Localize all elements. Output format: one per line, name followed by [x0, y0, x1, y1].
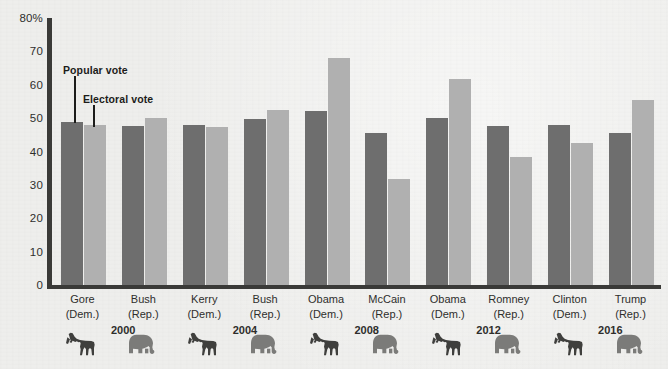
bar-popular-obama-4[interactable]: [305, 111, 327, 285]
bar-popular-bush-3[interactable]: [244, 119, 266, 285]
bar-group-gore-0: [61, 18, 106, 285]
donkey-icon-0: [65, 332, 99, 358]
bar-electoral-trump-9[interactable]: [632, 100, 654, 285]
candidate-name: Trump: [615, 293, 646, 305]
bar-group-kerry-2: [183, 18, 228, 285]
bar-popular-bush-1[interactable]: [122, 126, 144, 285]
bar-electoral-obama-4[interactable]: [328, 58, 350, 285]
bar-electoral-bush-1[interactable]: [145, 118, 167, 285]
bar-popular-obama-6[interactable]: [426, 118, 448, 285]
y-tick-label-50: 50: [3, 112, 43, 124]
candidate-name: Bush: [253, 293, 278, 305]
donkey-icon-4: [309, 332, 343, 358]
y-tick-label-60: 60: [3, 79, 43, 91]
donkey-icon-8: [553, 332, 587, 358]
electoral-vote-leader-line: [93, 105, 95, 127]
candidate-name: Bush: [131, 293, 156, 305]
bar-electoral-clinton-8[interactable]: [571, 143, 593, 285]
y-tick-label-80: 80%: [3, 12, 43, 24]
bar-electoral-romney-7[interactable]: [510, 157, 532, 285]
electoral-vote-annotation-label: Electoral vote: [83, 93, 153, 105]
bar-group-mccain-5: [365, 18, 410, 285]
candidate-name: Gore: [70, 293, 94, 305]
bar-electoral-mccain-5[interactable]: [388, 179, 410, 285]
bar-popular-romney-7[interactable]: [487, 126, 509, 285]
bar-electoral-kerry-2[interactable]: [206, 127, 228, 285]
elephant-icon-1: [126, 332, 160, 358]
bar-electoral-obama-6[interactable]: [449, 79, 471, 285]
bar-group-obama-6: [426, 18, 471, 285]
bar-group-romney-7: [487, 18, 532, 285]
candidate-party: (Rep.): [591, 307, 668, 322]
y-tick-label-30: 30: [3, 179, 43, 191]
candidate-label-trump-9: Trump(Rep.): [591, 292, 668, 322]
bar-electoral-gore-0[interactable]: [84, 125, 106, 285]
elephant-icon-5: [370, 332, 404, 358]
elephant-icon-7: [492, 332, 526, 358]
bar-group-bush-1: [122, 18, 167, 285]
bar-group-bush-3: [244, 18, 289, 285]
plot-area: [52, 18, 661, 285]
bar-popular-kerry-2[interactable]: [183, 125, 205, 285]
x-axis: [47, 285, 661, 289]
popular-vote-leader-line: [74, 76, 76, 123]
candidate-name: Obama: [308, 293, 344, 305]
bar-group-clinton-8: [548, 18, 593, 285]
bar-group-trump-9: [609, 18, 654, 285]
bar-popular-clinton-8[interactable]: [548, 125, 570, 285]
candidate-name: McCain: [368, 293, 405, 305]
y-tick-label-70: 70: [3, 45, 43, 57]
candidate-name: Clinton: [553, 293, 587, 305]
bar-popular-trump-9[interactable]: [609, 133, 631, 285]
donkey-icon-2: [187, 332, 221, 358]
candidate-name: Kerry: [191, 293, 217, 305]
elephant-icon-9: [614, 332, 648, 358]
elephant-icon-3: [248, 332, 282, 358]
y-tick-label-20: 20: [3, 212, 43, 224]
donkey-icon-6: [431, 332, 465, 358]
election-vote-bar-chart: 80%706050403020100 Popular vote Electora…: [0, 0, 668, 369]
y-tick-label-0: 0: [3, 279, 43, 291]
y-axis-tick-labels: 80%706050403020100: [0, 0, 43, 369]
bar-popular-mccain-5[interactable]: [365, 133, 387, 285]
candidate-name: Obama: [430, 293, 466, 305]
bar-popular-gore-0[interactable]: [61, 122, 83, 285]
candidate-name: Romney: [488, 293, 529, 305]
popular-vote-annotation-label: Popular vote: [63, 64, 128, 76]
bar-group-obama-4: [305, 18, 350, 285]
bar-electoral-bush-3[interactable]: [267, 110, 289, 285]
y-tick-label-10: 10: [3, 246, 43, 258]
y-tick-label-40: 40: [3, 146, 43, 158]
